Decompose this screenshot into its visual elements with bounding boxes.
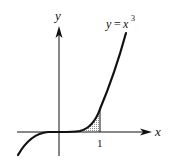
svg-text:x: x [122, 17, 129, 31]
cubic-curve [18, 33, 126, 155]
curve-equation-label: y = x 3 [105, 14, 135, 31]
y-axis-label: y [53, 8, 61, 23]
svg-text:3: 3 [131, 14, 135, 23]
x-axis-label: x [154, 124, 161, 139]
cubic-function-diagram: y x 1 y = x 3 [0, 0, 172, 163]
svg-text:=: = [114, 17, 121, 31]
tick-label-1: 1 [97, 137, 103, 149]
svg-text:y: y [105, 17, 112, 31]
